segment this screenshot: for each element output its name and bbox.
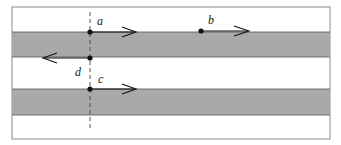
frame	[12, 7, 330, 139]
band-top	[12, 32, 330, 57]
label-c: c	[98, 72, 104, 86]
label-d: d	[75, 65, 82, 79]
label-b: b	[208, 13, 214, 27]
band-bottom	[12, 89, 330, 115]
diagram-canvas: a b d c	[0, 0, 341, 145]
label-a: a	[97, 14, 103, 28]
